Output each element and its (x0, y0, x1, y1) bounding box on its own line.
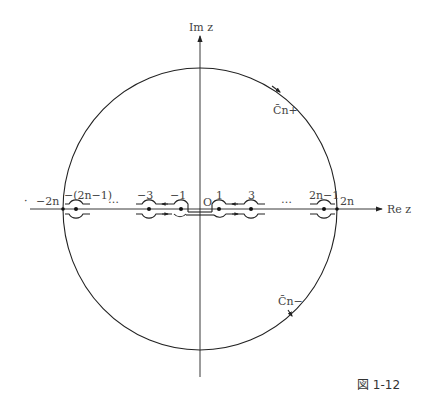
contour-figure: Re z Im z C̄n+ C̄n− O (0, 0, 428, 404)
keyhole-3 (249, 207, 253, 211)
label-minus-2n-minus-1: −(2n−1) (64, 189, 112, 202)
keyhole-minus-1 (174, 207, 186, 217)
point-2n (335, 207, 339, 211)
ellipsis-left: … (108, 193, 119, 206)
point-minus-2n (61, 207, 65, 211)
label-minus-3: −3 (137, 189, 153, 202)
label-2n: 2n (340, 195, 354, 208)
label-3: 3 (248, 189, 255, 202)
imaginary-axis-label: Im z (189, 21, 213, 34)
figure-caption: 図 1-12 (357, 378, 400, 392)
left-mark: · (24, 195, 28, 208)
label-1: 1 (216, 189, 223, 202)
label-minus-1: −1 (170, 189, 186, 202)
real-axis-label: Re z (387, 203, 411, 216)
ellipsis-right: … (281, 193, 292, 206)
label-2n-minus-1: 2n−1 (309, 189, 339, 202)
upper-contour-label: C̄n+ (273, 104, 298, 117)
label-minus-2n: −2n (36, 195, 59, 208)
origin-label: O (203, 196, 212, 209)
lower-contour-label: C̄n− (278, 295, 303, 308)
